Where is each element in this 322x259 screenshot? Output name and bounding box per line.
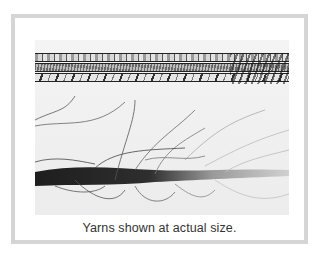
- ribbon-yarns: [35, 53, 289, 84]
- yarn-photo: [35, 40, 289, 215]
- ribbon-dark-section: [230, 53, 289, 84]
- fuzzy-yarn: [35, 90, 289, 215]
- figure-caption: Yarns shown at actual size.: [15, 221, 304, 235]
- figure-frame: Yarns shown at actual size.: [11, 14, 308, 244]
